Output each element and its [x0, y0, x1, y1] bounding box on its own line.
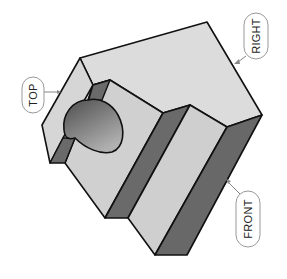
arrowhead-right [234, 59, 240, 64]
label-top-text: TOP [27, 83, 39, 106]
leader-front [229, 183, 240, 194]
label-front-text: FRONT [242, 199, 254, 238]
label-front: FRONT [226, 179, 260, 247]
label-right-text: RIGHT [250, 18, 262, 54]
isometric-block-figure: TOP RIGHT FRONT [0, 0, 287, 279]
label-right: RIGHT [234, 13, 268, 64]
